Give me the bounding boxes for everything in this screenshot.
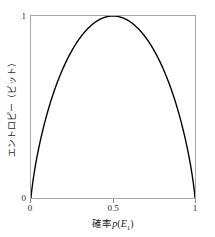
x-axis-label-close-paren: ): [130, 218, 133, 229]
y-axis-label-wrap: エントロピー（ビット）: [0, 15, 24, 199]
entropy-chart-figure: 0 0.5 1 1 0 確率p(E1) エントロピー（ビット）: [0, 0, 215, 237]
x-tick-label-0: 0: [28, 203, 33, 213]
x-tick-label-0.5: 0.5: [107, 203, 118, 213]
x-tick-label-1: 1: [193, 203, 198, 213]
entropy-curve-line: [31, 16, 195, 198]
entropy-curve-svg: [31, 16, 195, 198]
x-axis-label-jp: 確率: [92, 218, 112, 229]
plot-area: [30, 15, 196, 199]
x-axis-label: 確率p(E1): [30, 217, 196, 235]
y-axis-label: エントロピー（ビット）: [7, 58, 18, 157]
